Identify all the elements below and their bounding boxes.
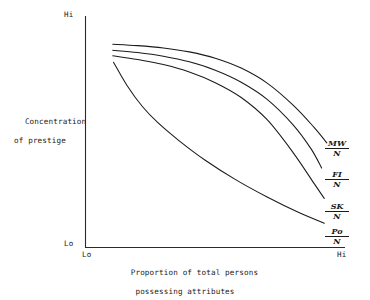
curve-label-sk-denominator: N <box>325 212 349 221</box>
curve-mw-n <box>113 44 327 143</box>
curve-label-fi-n: FI N <box>325 170 349 188</box>
y-axis-title-line1: Concentration <box>25 117 86 126</box>
curve-label-sk-n: SK N <box>325 202 349 220</box>
curve-label-mw-n: MW N <box>325 139 349 157</box>
x-axis-title-line1: Proportion of total persons <box>131 268 259 277</box>
y-axis-bottom-tick-label: Lo <box>64 239 73 248</box>
x-axis-left-tick-label: Lo <box>82 250 91 259</box>
curve-label-mw-denominator: N <box>325 149 349 158</box>
x-axis-right-tick-label: Hi <box>337 250 346 259</box>
y-axis-top-tick-label: Hi <box>64 10 73 19</box>
curve-po-n <box>114 62 325 223</box>
x-axis-title-line2: possessing attributes <box>0 287 370 296</box>
curve-sk-n <box>113 56 324 199</box>
y-axis-title: Concentration of prestige <box>6 108 86 165</box>
curve-label-po-denominator: N <box>325 237 349 246</box>
y-axis-title-line2: of prestige <box>6 136 86 145</box>
curve-label-fi-denominator: N <box>325 180 349 189</box>
x-axis-title: Proportion of total persons possessing a… <box>0 259 370 300</box>
curve-label-po-n: Po N <box>325 227 349 245</box>
